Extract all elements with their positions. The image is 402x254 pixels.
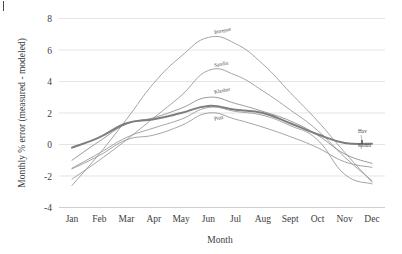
x-tick-label-mar: Mar [119, 214, 136, 224]
x-tick-labels: JanFebMarAprMayJunJulAugSeptOctNovDec [66, 214, 380, 224]
x-tick-label-jul: Jul [230, 214, 241, 224]
y-tick-label-6: 6 [47, 46, 52, 56]
x-tick-label-nov: Nov [337, 214, 354, 224]
series-line-pittz [72, 113, 372, 169]
x-tick-label-jun: Jun [202, 214, 215, 224]
x-tick-label-apr: Apr [146, 214, 162, 224]
series-label-sandia: Sandia [213, 59, 229, 68]
series-label-hav: Hav [358, 128, 367, 134]
x-axis-title: Month [207, 235, 233, 245]
y-axis-title: Monthly % error (measured - modeled) [17, 38, 28, 188]
y-tick-label-8: 8 [47, 14, 52, 24]
chart-figure: 8 6 4 2 0 -2 -4 IntrepseSandiaKlasherPit… [0, 0, 402, 254]
x-tick-label-oct: Oct [311, 214, 325, 224]
y-tick-label-4: 4 [47, 77, 52, 87]
series-line-intrepse [72, 36, 372, 185]
x-tick-label-sept: Sept [282, 214, 299, 224]
x-tick-label-aug: Aug [255, 214, 272, 224]
x-tick-label-jan: Jan [66, 214, 79, 224]
series-line-sandia [72, 69, 372, 181]
x-tick-label-feb: Feb [92, 214, 107, 224]
x-tick-label-dec: Dec [364, 214, 379, 224]
series-paths [72, 36, 372, 185]
series-label-klasher: Klasher [213, 86, 231, 95]
y-tick-label-2: 2 [47, 109, 52, 119]
line-chart-canvas: 8 6 4 2 0 -2 -4 IntrepseSandiaKlasherPit… [0, 0, 402, 254]
y-tick-labels: 8 6 4 2 0 -2 -4 [44, 14, 52, 213]
y-tick-label-minus2: -2 [44, 172, 52, 182]
y-tick-label-minus4: -4 [44, 203, 52, 213]
series-label-pittz: Pittz [213, 114, 224, 122]
x-tick-label-may: May [172, 214, 190, 224]
page-corner-mark [3, 1, 4, 11]
series-label-konni: Konni [358, 142, 372, 148]
y-tick-label-0: 0 [47, 140, 52, 150]
series-label-intrepse: Intrepse [213, 26, 232, 35]
